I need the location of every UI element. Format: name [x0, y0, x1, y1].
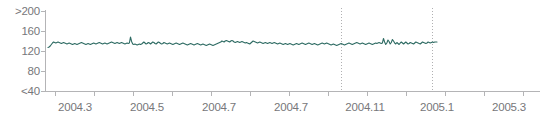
data-series-line [48, 37, 437, 48]
line-chart: >200 160 120 80 <40 2004.3 2004.5 2004.7… [0, 0, 544, 118]
plot-area [0, 0, 544, 118]
